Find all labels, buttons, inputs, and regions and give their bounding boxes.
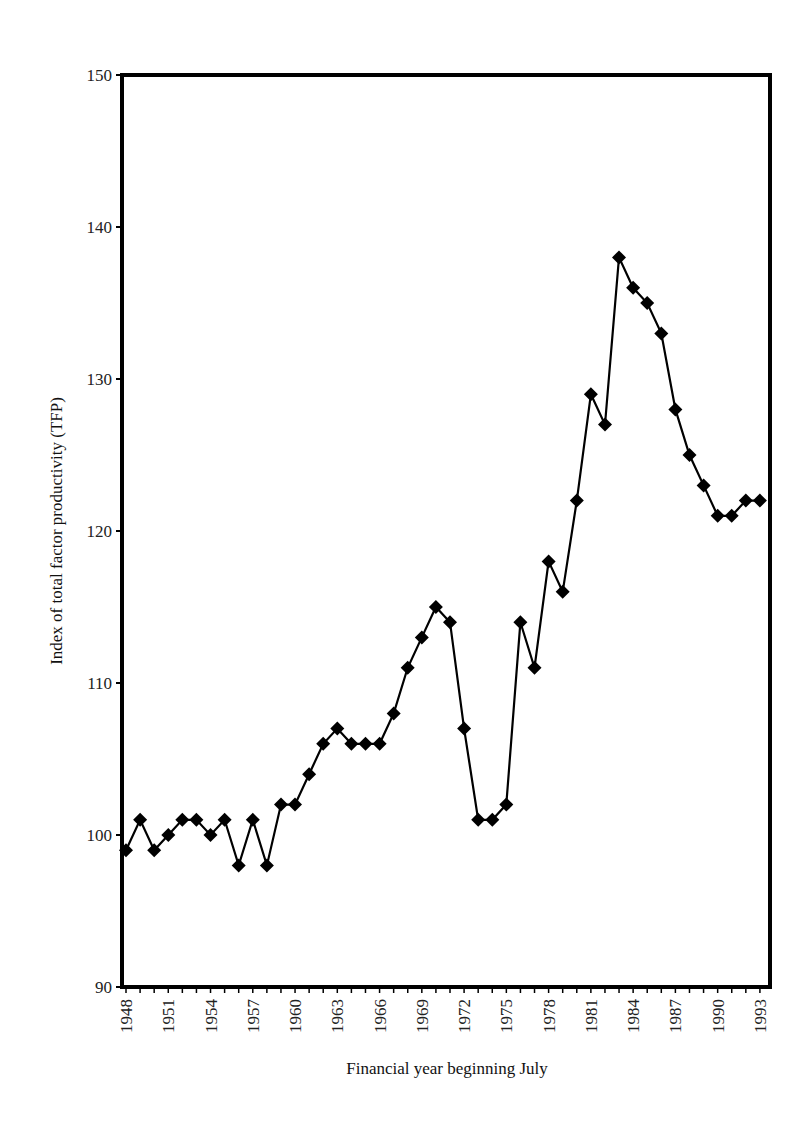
- diamond-marker: [359, 737, 373, 751]
- y-tick-label: 130: [87, 370, 113, 389]
- diamond-marker: [584, 387, 598, 401]
- x-tick-label: 1966: [371, 999, 390, 1033]
- tfp-series-markers: [119, 250, 767, 872]
- y-tick-label: 90: [95, 978, 112, 997]
- diamond-marker: [260, 858, 274, 872]
- x-tick-label: 1990: [709, 999, 728, 1033]
- x-axis-ticks: 1948195119541957196019631966196919721975…: [117, 987, 770, 1033]
- diamond-marker: [654, 326, 668, 340]
- diamond-marker: [288, 798, 302, 812]
- y-tick-label: 150: [87, 66, 113, 85]
- diamond-marker: [302, 767, 316, 781]
- diamond-marker: [133, 813, 147, 827]
- x-tick-label: 1969: [413, 999, 432, 1033]
- tfp-line-chart: 90100110120130140150 1948195119541957196…: [0, 0, 811, 1127]
- y-axis-ticks: 90100110120130140150: [87, 66, 123, 997]
- diamond-marker: [570, 494, 584, 508]
- diamond-marker: [683, 448, 697, 462]
- y-tick-label: 140: [87, 218, 113, 237]
- x-tick-label: 1972: [455, 999, 474, 1033]
- x-tick-label: 1978: [540, 999, 559, 1033]
- diamond-marker: [753, 494, 767, 508]
- x-tick-label: 1963: [328, 999, 347, 1033]
- diamond-marker: [612, 250, 626, 264]
- y-tick-label: 100: [87, 826, 113, 845]
- tfp-series-line: [126, 257, 760, 865]
- x-tick-label: 1984: [624, 999, 643, 1034]
- diamond-marker: [401, 661, 415, 675]
- diamond-marker: [246, 813, 260, 827]
- plot-frame: [122, 75, 770, 987]
- diamond-marker: [598, 418, 612, 432]
- diamond-marker: [274, 798, 288, 812]
- diamond-marker: [697, 478, 711, 492]
- x-tick-label: 1951: [159, 999, 178, 1033]
- y-axis-title: Index of total factor productivity (TFP): [47, 397, 66, 665]
- diamond-marker: [513, 615, 527, 629]
- diamond-marker: [668, 402, 682, 416]
- diamond-marker: [471, 813, 485, 827]
- x-tick-label: 1948: [117, 999, 136, 1033]
- y-tick-label: 110: [87, 674, 112, 693]
- x-axis-title: Financial year beginning July: [346, 1059, 548, 1078]
- x-tick-label: 1954: [202, 999, 221, 1034]
- diamond-marker: [415, 630, 429, 644]
- x-tick-label: 1993: [751, 999, 770, 1033]
- diamond-marker: [542, 554, 556, 568]
- x-tick-label: 1957: [244, 999, 263, 1034]
- diamond-marker: [528, 661, 542, 675]
- diamond-marker: [373, 737, 387, 751]
- diamond-marker: [556, 585, 570, 599]
- x-tick-label: 1987: [666, 999, 685, 1034]
- x-tick-label: 1960: [286, 999, 305, 1033]
- diamond-marker: [457, 722, 471, 736]
- diamond-marker: [711, 509, 725, 523]
- x-tick-label: 1981: [582, 999, 601, 1033]
- diamond-marker: [232, 858, 246, 872]
- diamond-marker: [387, 706, 401, 720]
- y-tick-label: 120: [87, 522, 113, 541]
- x-tick-label: 1975: [497, 999, 516, 1033]
